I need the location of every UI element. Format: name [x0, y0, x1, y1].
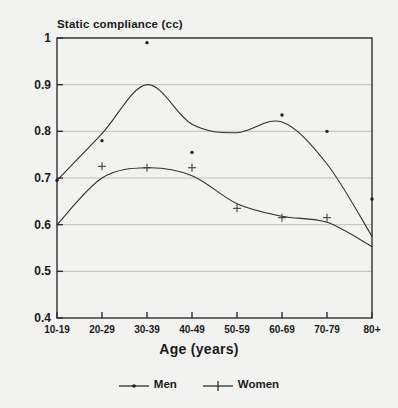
x-tick-label: 50-59 [224, 324, 250, 335]
x-tick-label: 20-29 [89, 324, 115, 335]
x-tick-label: 70-79 [314, 324, 340, 335]
legend-label: Men [154, 378, 177, 390]
x-axis-title: Age (years) [0, 341, 398, 357]
y-tick-label: 0.8 [4, 124, 51, 138]
legend-entry: Men [119, 378, 177, 390]
y-tick-label: 1 [4, 31, 51, 45]
y-tick-label: 0.4 [4, 311, 51, 325]
chart-legend: MenWomen [0, 378, 398, 390]
y-tick-label: 0.7 [4, 171, 51, 185]
x-tick-label: 80+ [364, 324, 381, 335]
legend-entry: Women [203, 378, 279, 390]
gridlines [57, 38, 372, 271]
plus-marker-icon [203, 378, 233, 390]
dot-marker-icon [119, 378, 149, 390]
series-lines [57, 85, 372, 247]
y-tick-label: 0.9 [4, 78, 51, 92]
x-tick-label: 60-69 [269, 324, 295, 335]
chart-figure: Static compliance (cc) 0.40.50.60.70.80.… [0, 0, 398, 408]
legend-label: Women [238, 378, 279, 390]
x-tick-label: 30-39 [134, 324, 160, 335]
x-tick-label: 10-19 [44, 324, 70, 335]
x-tick-label: 40-49 [179, 324, 205, 335]
y-tick-label: 0.5 [4, 264, 51, 278]
y-tick-label: 0.6 [4, 218, 51, 232]
